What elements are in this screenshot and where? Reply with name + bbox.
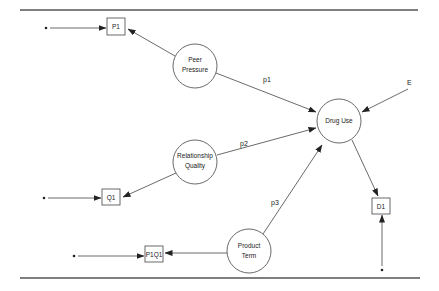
node-peer-pressure: Peer Pressure <box>173 44 217 88</box>
relationship-quality-label-2: Quality <box>185 162 206 170</box>
error-label-e: E <box>407 79 412 86</box>
product-term-label-1: Product <box>238 242 261 249</box>
path-label-p3: p3 <box>271 199 279 207</box>
error-dot-p1 <box>45 27 48 30</box>
path-label-p1: p1 <box>263 76 271 84</box>
indicator-q1-label: Q1 <box>107 194 116 202</box>
arrow-e-to-drug <box>362 89 408 112</box>
error-dot-d1 <box>381 269 384 272</box>
arrow-drug-to-d1 <box>352 140 378 196</box>
error-dot-q1 <box>43 197 46 200</box>
indicator-p1q1: P1Q1 <box>145 246 163 262</box>
node-drug-use: Drug Use <box>317 99 361 143</box>
arrow-peer-to-p1 <box>128 29 175 56</box>
drug-use-label: Drug Use <box>325 117 353 125</box>
arrow-p2-rel-to-drug <box>217 128 316 155</box>
node-product-term: Product Term <box>227 229 271 273</box>
indicator-p1q1-label: P1Q1 <box>146 251 163 259</box>
indicator-p1: P1 <box>107 18 125 35</box>
path-diagram: Peer Pressure Relationship Quality Produ… <box>0 0 439 291</box>
arrow-p3-prod-to-drug <box>263 145 322 234</box>
relationship-quality-label-1: Relationship <box>177 152 213 160</box>
arrow-rel-to-q1 <box>123 173 176 197</box>
peer-pressure-label-1: Peer <box>188 56 203 63</box>
path-label-p2: p2 <box>240 140 248 148</box>
peer-pressure-label-2: Pressure <box>182 66 208 73</box>
indicator-p1-label: P1 <box>112 23 120 30</box>
indicator-d1-label: D1 <box>377 203 386 210</box>
indicator-q1: Q1 <box>102 189 120 205</box>
node-relationship-quality: Relationship Quality <box>173 140 217 184</box>
indicator-d1: D1 <box>372 198 390 214</box>
product-term-label-2: Term <box>242 252 256 259</box>
error-dot-p1q1 <box>73 255 76 258</box>
